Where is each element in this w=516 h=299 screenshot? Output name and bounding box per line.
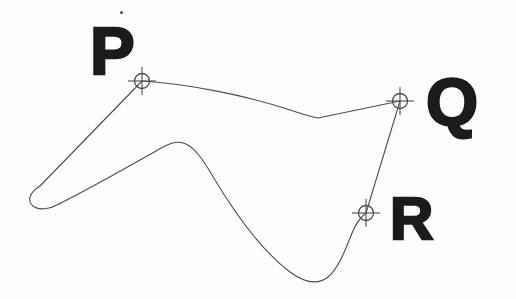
point-label-p: P <box>90 17 133 84</box>
crosshair-marker-r <box>352 199 380 227</box>
scan-artifact-speck <box>120 11 123 14</box>
point-label-q: Q <box>426 68 477 135</box>
figure-canvas: P Q R <box>0 0 516 299</box>
geometry-figure <box>0 0 516 299</box>
curve-lower-boundary <box>59 142 366 282</box>
curve-upper-boundary <box>142 81 400 118</box>
crosshair-marker-q <box>386 87 414 115</box>
point-label-r: R <box>390 189 432 249</box>
